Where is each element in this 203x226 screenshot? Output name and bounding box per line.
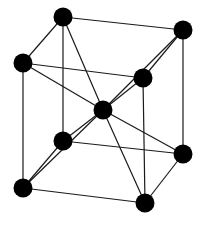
atom-bottom-front-right <box>136 194 155 213</box>
atom-bottom-back-right <box>174 145 193 164</box>
atom-top-back-right <box>174 21 193 40</box>
atom-bottom-back-left <box>54 132 73 151</box>
atom-top-front-right <box>134 69 153 88</box>
atom-bottom-front-left <box>14 179 33 198</box>
atom-top-back-left <box>54 8 73 27</box>
bcc-unit-cell-diagram <box>0 0 203 226</box>
atom-center <box>94 101 113 120</box>
atom-top-front-left <box>14 54 33 73</box>
